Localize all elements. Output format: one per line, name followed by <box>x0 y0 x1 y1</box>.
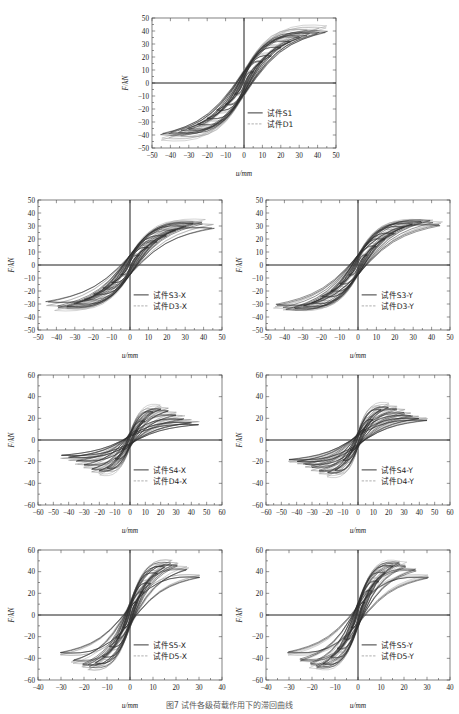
y-axis-label: F/kN <box>235 257 244 274</box>
x-tick-label: 0 <box>128 334 132 342</box>
x-tick-label: −50 <box>146 152 158 160</box>
x-tick-label: −10 <box>329 684 341 692</box>
y-tick-label: −40 <box>252 655 264 663</box>
x-tick-label: −60 <box>260 509 272 517</box>
x-tick-label: −10 <box>334 334 346 342</box>
legend-label-2: 试件D4-Y <box>381 476 415 486</box>
x-tick-label: −10 <box>106 334 118 342</box>
chart-panel-1: −50−40−30−20−1001020304050−50−40−30−20−1… <box>118 8 346 178</box>
chart-svg: −60−50−40−30−20−100102030405060−60−40−20… <box>4 365 232 535</box>
y-tick-label: 20 <box>142 54 150 62</box>
legend-label-2: 试件D5-X <box>153 651 187 661</box>
chart-svg: −40−30−20−10010203040−60−40−200204060u/m… <box>4 540 232 710</box>
y-tick-label: 10 <box>142 67 150 75</box>
x-tick-label: 50 <box>218 334 226 342</box>
legend-label-1: 试件S5-X <box>153 640 186 650</box>
x-tick-label: 30 <box>296 152 304 160</box>
y-tick-label: −20 <box>24 633 36 641</box>
chart-svg: −40−30−20−10010203040−60−40−200204060u/m… <box>232 540 459 710</box>
legend-label-2: 试件D4-X <box>153 476 187 486</box>
x-tick-label: 0 <box>356 509 360 517</box>
x-tick-label: 50 <box>332 152 340 160</box>
y-tick-label: 40 <box>256 568 264 576</box>
x-tick-label: −30 <box>78 509 90 517</box>
y-tick-label: 40 <box>256 210 264 218</box>
x-tick-label: −40 <box>279 334 291 342</box>
x-tick-label: −50 <box>260 334 272 342</box>
x-tick-label: 30 <box>182 334 190 342</box>
x-tick-label: 30 <box>195 684 203 692</box>
y-tick-label: −20 <box>138 106 150 114</box>
chart-svg: −60−50−40−30−20−100102030405060−60−40−20… <box>232 365 459 535</box>
y-tick-label: −60 <box>24 677 36 685</box>
hysteresis-figure: −50−40−30−20−1001020304050−50−40−30−20−1… <box>0 0 459 714</box>
y-axis-label: F/kN <box>235 432 244 449</box>
x-tick-label: 60 <box>446 509 454 517</box>
chart-svg: −50−40−30−20−1001020304050−50−40−30−20−1… <box>4 190 232 360</box>
x-tick-label: −30 <box>55 684 67 692</box>
x-tick-label: 10 <box>377 684 385 692</box>
y-tick-label: −40 <box>138 132 150 140</box>
x-tick-label: −10 <box>337 509 349 517</box>
legend-label-2: 试件D5-Y <box>381 651 415 661</box>
x-tick-label: −10 <box>109 509 121 517</box>
y-tick-label: −30 <box>138 119 150 127</box>
y-tick-label: 0 <box>145 80 149 88</box>
y-tick-label: 10 <box>256 249 264 257</box>
y-tick-label: −30 <box>24 301 36 309</box>
y-tick-label: 30 <box>28 223 36 231</box>
x-tick-label: 30 <box>423 684 431 692</box>
x-tick-label: 60 <box>218 509 226 517</box>
y-tick-label: −20 <box>24 458 36 466</box>
x-tick-label: −40 <box>32 684 44 692</box>
chart-panel-5: −60−50−40−30−20−100102030405060−60−40−20… <box>232 365 459 535</box>
y-axis-label: F/kN <box>7 257 16 274</box>
y-tick-label: 40 <box>142 28 150 36</box>
legend-label-2: 试件D3-Y <box>381 301 415 311</box>
y-tick-label: 30 <box>142 41 150 49</box>
y-tick-label: 50 <box>142 15 150 23</box>
x-axis-label: u/mm <box>122 526 139 535</box>
legend-label-2: 试件D1 <box>267 119 294 129</box>
x-tick-label: 10 <box>370 509 378 517</box>
y-tick-label: 10 <box>28 249 36 257</box>
y-tick-label: −40 <box>24 480 36 488</box>
y-tick-label: −30 <box>252 301 264 309</box>
x-tick-label: −60 <box>32 509 44 517</box>
legend-label-1: 试件S4-Y <box>381 465 413 475</box>
x-tick-label: 40 <box>446 684 454 692</box>
x-tick-label: 10 <box>259 152 267 160</box>
x-tick-label: 20 <box>277 152 285 160</box>
x-tick-label: −30 <box>283 684 295 692</box>
y-tick-label: 20 <box>28 236 36 244</box>
x-tick-label: 40 <box>218 684 226 692</box>
y-tick-label: 40 <box>28 393 36 401</box>
x-tick-label: −20 <box>78 684 90 692</box>
x-tick-label: −50 <box>48 509 60 517</box>
x-tick-label: 30 <box>410 334 418 342</box>
y-tick-label: 20 <box>256 590 264 598</box>
x-tick-label: 20 <box>163 334 171 342</box>
x-tick-label: −40 <box>165 152 177 160</box>
x-tick-label: 40 <box>428 334 436 342</box>
y-tick-label: −10 <box>138 93 150 101</box>
legend-label-1: 试件S3-Y <box>381 290 413 300</box>
x-axis-label: u/mm <box>350 351 367 360</box>
y-tick-label: −20 <box>252 288 264 296</box>
legend-label-2: 试件D3-X <box>153 301 187 311</box>
y-tick-label: −40 <box>24 314 36 322</box>
y-tick-label: 40 <box>28 568 36 576</box>
y-tick-label: −50 <box>252 327 264 335</box>
x-tick-label: −40 <box>63 509 75 517</box>
x-tick-label: 0 <box>356 334 360 342</box>
y-tick-label: −10 <box>252 275 264 283</box>
y-tick-label: −20 <box>252 633 264 641</box>
y-tick-label: 0 <box>259 262 263 270</box>
x-tick-label: 50 <box>431 509 439 517</box>
x-tick-label: −40 <box>260 684 272 692</box>
legend-label-1: 试件S5-Y <box>381 640 413 650</box>
x-tick-label: −20 <box>94 509 106 517</box>
y-axis-label: F/kN <box>7 607 16 624</box>
x-tick-label: −30 <box>297 334 309 342</box>
x-tick-label: 40 <box>188 509 196 517</box>
